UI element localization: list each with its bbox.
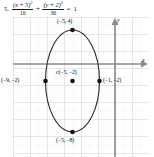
fraction-2-numerator-text: (y + 2) [43,1,60,8]
point-bottom-vertex [70,130,75,135]
equals-sign: = [66,5,70,13]
fraction-1-numerator: (x + 5)2 [12,1,34,9]
fraction-1-exponent: 2 [30,0,32,5]
label-top-vertex: (−5, 4) [57,18,72,24]
y-axis-label: y [117,17,120,23]
equation: 5. (x + 5)2 16 + (y + 2)2 36 = 1 [4,0,154,17]
label-center: c(−5, −2) [56,69,77,75]
point-center [70,79,75,84]
fraction-2-denominator: 36 [49,10,57,17]
fraction-2-exponent: 2 [61,0,63,5]
fraction-2-numerator: (y + 2)2 [42,1,64,9]
point-right-covertex [97,79,102,84]
label-left-covertex: (−9, −2) [1,77,19,83]
x-axis-label: x [142,57,145,63]
major-gridlines [13,17,149,157]
point-left-covertex [43,79,48,84]
graph-svg [13,17,149,157]
fraction-term-2: (y + 2)2 36 [42,1,64,17]
fraction-1-denominator: 16 [19,10,27,17]
ellipse-figure: 5. (x + 5)2 16 + (y + 2)2 36 = 1 [0,0,154,157]
fraction-1-numerator-text: (x + 5) [13,1,30,8]
point-top-vertex [70,28,75,33]
coordinate-plane: (−5, 4) (−5, −8) (−9, −2) (−1, −2) c(−5,… [13,17,149,157]
right-hand-side: 1 [73,5,77,13]
label-bottom-vertex: (−5, −8) [56,137,74,143]
fraction-term-1: (x + 5)2 16 [12,1,34,17]
plus-operator: + [36,5,40,13]
problem-number: 5. [4,5,9,12]
label-right-covertex: (−1, −2) [103,77,121,83]
